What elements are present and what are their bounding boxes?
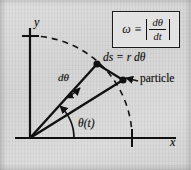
angular-speed-formula-box: ω ≡ dθ dt <box>112 11 180 48</box>
fraction-numerator: dθ <box>152 17 162 28</box>
theta-of-t-label: θ(t) <box>78 118 95 130</box>
particle-leader-line <box>126 78 138 81</box>
radius-line-particle <box>30 80 123 138</box>
omega-symbol: ω <box>122 22 130 37</box>
point-earlier-position <box>93 60 100 67</box>
physics-figure: y x ds = r dθ particle dθ θ(t) ω ≡ dθ dt <box>0 0 191 170</box>
particle-label: particle <box>140 73 174 85</box>
arc-element-ds <box>97 64 123 80</box>
fraction-denominator: dt <box>154 31 162 42</box>
absolute-value-group: dθ dt <box>146 17 170 42</box>
x-axis-label: x <box>170 136 175 148</box>
arc-length-label: ds = r dθ <box>103 52 146 64</box>
derivative-fraction: dθ dt <box>148 17 167 42</box>
point-particle <box>119 76 126 83</box>
abs-bar-right <box>169 19 170 40</box>
y-axis-label: y <box>34 16 39 28</box>
abs-bar-left <box>146 19 147 40</box>
equivalence-symbol: ≡ <box>135 22 142 37</box>
dtheta-label: dθ <box>58 72 69 83</box>
